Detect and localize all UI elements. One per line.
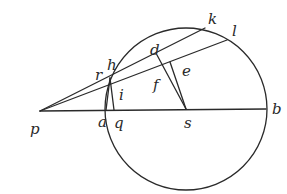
line-p-b bbox=[40, 109, 266, 111]
label-h: h bbox=[107, 56, 117, 74]
label-b: b bbox=[272, 100, 282, 118]
point-labels: kldhrefipaqsb bbox=[30, 10, 282, 138]
line-p-l bbox=[40, 40, 227, 111]
label-d: d bbox=[150, 41, 160, 59]
label-k: k bbox=[208, 10, 217, 28]
label-s: s bbox=[184, 114, 192, 132]
geometry-diagram: kldhrefipaqsb bbox=[0, 0, 287, 194]
label-r: r bbox=[95, 66, 103, 84]
label-e: e bbox=[182, 62, 191, 80]
label-f: f bbox=[152, 76, 161, 94]
label-p: p bbox=[30, 120, 40, 138]
label-a: a bbox=[98, 113, 107, 131]
label-i: i bbox=[119, 86, 124, 104]
label-q: q bbox=[114, 114, 124, 132]
label-l: l bbox=[232, 22, 237, 40]
